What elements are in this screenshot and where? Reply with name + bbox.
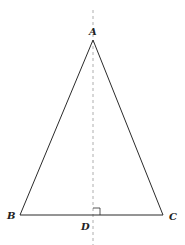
side-ab: [20, 40, 93, 215]
label-a: A: [88, 26, 97, 37]
label-d: D: [80, 221, 90, 232]
label-c: C: [169, 211, 177, 222]
right-angle-marker: [93, 208, 100, 215]
triangle-diagram: A B C D: [0, 0, 185, 245]
side-ac: [93, 40, 163, 215]
diagram-canvas: A B C D: [0, 0, 185, 245]
label-b: B: [6, 210, 15, 221]
